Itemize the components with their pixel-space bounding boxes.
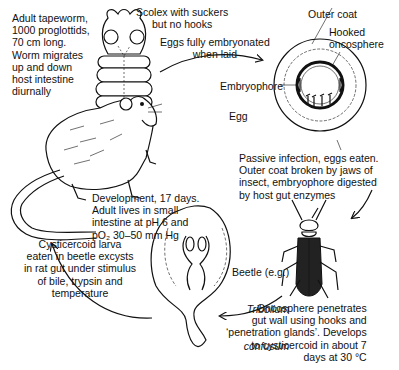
hooked-oncosphere-label: Hooked oncosphere xyxy=(329,26,384,50)
cysticercoid-label: Cysticercoid larva eaten in beetle excys… xyxy=(24,238,136,299)
scolex-label: Scolex with suckers but no hooks xyxy=(136,6,228,30)
embryophore-label: Embryophore xyxy=(220,80,283,92)
egg-label: Egg xyxy=(229,110,248,122)
oncosphere-penetrates-label: Oncosphere penetrates gut wall using hoo… xyxy=(226,302,367,363)
tapeworm-life-cycle-diagram: Adult tapeworm, 1000 proglottids, 70 cm … xyxy=(0,0,399,370)
development-label: Development, 17 days. Adult lives in sma… xyxy=(92,192,199,241)
beetle-host-drawing xyxy=(282,200,338,298)
eggs-laid-label: Eggs fully embryonated when laid xyxy=(160,36,270,60)
passive-infection-label: Passive infection, eggs eaten. Outer coa… xyxy=(239,152,379,201)
adult-tapeworm-label: Adult tapeworm, 1000 proglottids, 70 cm … xyxy=(12,12,90,97)
outer-coat-label: Outer coat xyxy=(308,8,357,20)
beetle-label-prefix: Beetle (e.g.) xyxy=(232,266,289,278)
